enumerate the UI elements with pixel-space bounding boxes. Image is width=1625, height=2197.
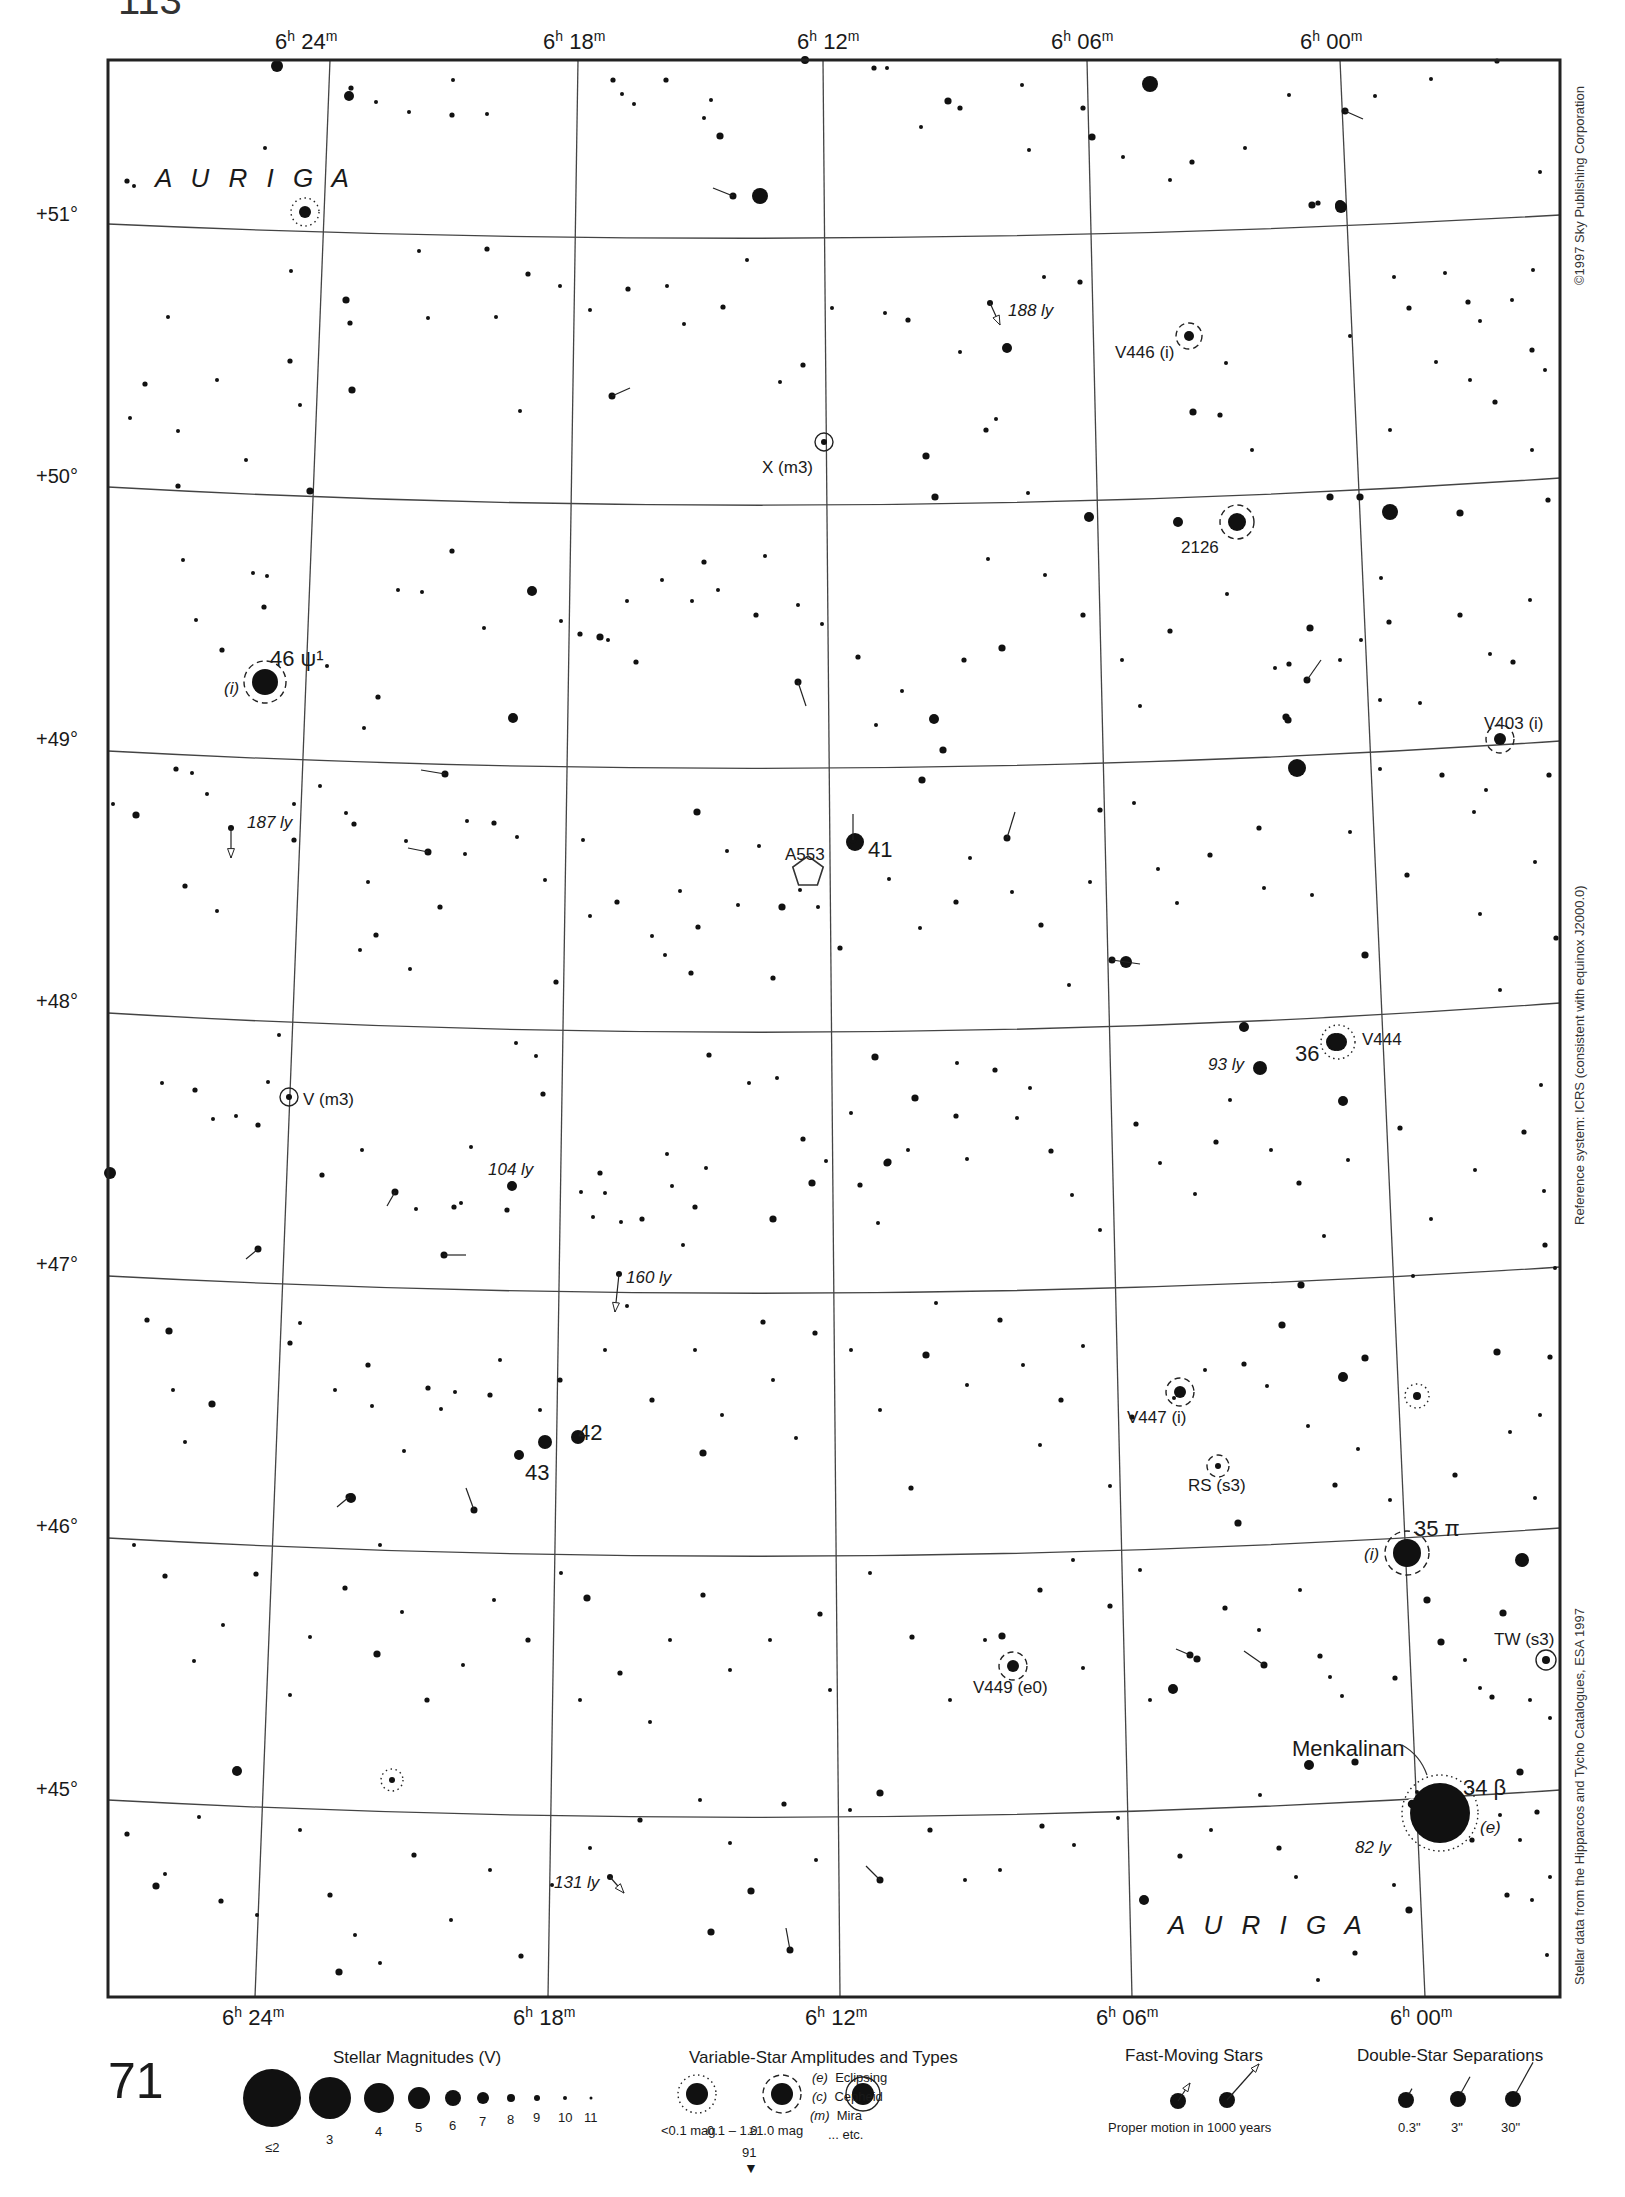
star [1510,659,1515,664]
star [437,904,442,909]
next-page-arrow-label[interactable]: 91 [742,2145,756,2160]
star [1027,148,1031,152]
star [197,1815,201,1819]
star [702,116,706,120]
star [1322,1234,1326,1238]
star [291,837,296,842]
star [934,1301,938,1305]
object-label: TW (s3) [1494,1630,1554,1650]
star [1168,178,1172,182]
star [909,1634,914,1639]
star [994,417,998,421]
star [557,1377,562,1382]
dec-label: +47° [36,1253,78,1276]
star [883,311,887,315]
star [375,694,380,699]
star [1516,1768,1523,1775]
star [1207,852,1212,857]
star [820,622,824,626]
star [288,1693,292,1697]
star [459,1201,463,1205]
star [1463,1658,1467,1662]
dec-gridline [108,478,1560,505]
star [215,909,219,913]
star [1107,1603,1112,1608]
star [465,819,469,823]
star [760,1319,765,1324]
dec-gridline [108,1790,1560,1817]
star [588,308,592,312]
star [494,315,498,319]
legend-double-label-2: 3" [1451,2120,1463,2135]
star [347,320,352,325]
star [770,975,775,980]
next-page-arrow-icon[interactable]: ▼ [744,2160,758,2176]
motion-tick [1345,111,1363,119]
star [353,1933,357,1937]
star [794,1436,798,1440]
star [918,776,925,783]
star [449,548,454,553]
star [1225,592,1229,596]
star [591,1215,595,1219]
star [1531,268,1535,272]
star [1262,886,1266,890]
star [514,1450,524,1460]
object-label: 160 ly [626,1268,671,1288]
object-label: 2126 [1181,538,1219,558]
object-label: 82 ly [1355,1838,1391,1858]
star [1397,1125,1402,1130]
star [1338,1372,1348,1382]
star [632,102,636,106]
legend-variables-title: Variable-Star Amplitudes and Types [689,2048,958,2068]
motion-tick [387,1192,395,1206]
bright-stars [104,56,1529,1842]
star [487,1392,492,1397]
star [1168,1684,1178,1694]
motion-tick [408,848,428,852]
star [491,820,496,825]
star [451,1204,456,1209]
dec-label: +51° [36,203,78,226]
chart-frame [108,60,1560,1997]
star [263,146,267,150]
star [244,458,248,462]
star [132,811,139,818]
star [1489,1694,1494,1699]
star [1510,298,1514,302]
star [1361,1354,1368,1361]
faint-stars [111,58,1559,1982]
dec-gridline [108,215,1560,238]
star [871,65,876,70]
star [425,1385,430,1390]
star [1498,988,1502,992]
star [378,1543,382,1547]
star [716,588,720,592]
star [617,1670,622,1675]
star [1545,497,1550,502]
star [1545,1953,1549,1957]
ra-gridline [548,60,578,1997]
star [939,746,946,753]
star [1478,319,1482,323]
star [1286,661,1291,666]
star [265,574,269,578]
legend-magnitude-label: 5 [415,2120,422,2135]
star [451,78,455,82]
star [266,1080,270,1084]
star [1499,1609,1506,1616]
object-label: A553 [785,845,825,865]
dec-gridline [108,741,1560,768]
star [1088,133,1095,140]
star [1439,772,1444,777]
star [620,92,624,96]
star [373,1650,380,1657]
star [1386,619,1391,624]
legend-type-mira: (m) Mira [810,2108,862,2123]
object-label: V444 [1362,1030,1402,1050]
star [1120,658,1124,662]
legend-double-label-3: 30" [1501,2120,1520,2135]
star [1121,155,1125,159]
star [319,1172,324,1177]
star [800,1136,805,1141]
